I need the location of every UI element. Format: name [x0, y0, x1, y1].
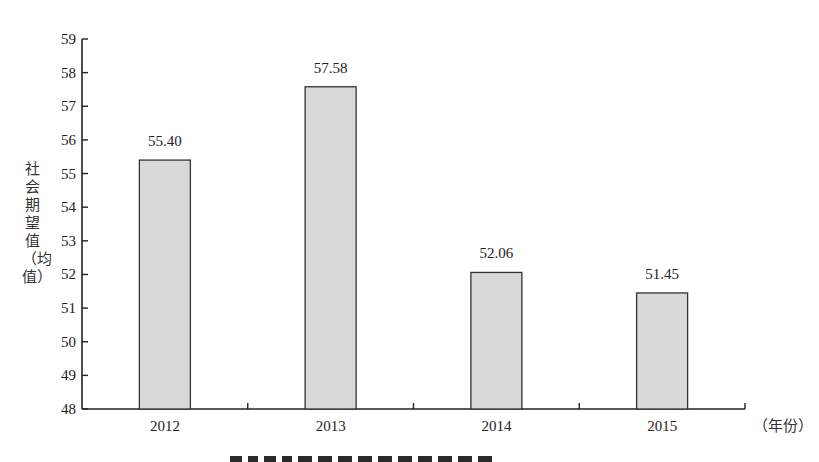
bar-2015: [637, 293, 688, 409]
x-tick-label: 2012: [150, 418, 180, 434]
x-axis-label: （年份）: [753, 417, 813, 435]
y-tick-label: 59: [61, 31, 76, 47]
figure-caption-cropped: [230, 452, 610, 462]
y-tick-label: 56: [61, 132, 77, 148]
y-tick-label: 55: [61, 166, 76, 182]
bar-2013: [305, 87, 356, 409]
y-axis-label: 社会期望值（均值）: [22, 160, 42, 286]
y-tick-label: 54: [61, 199, 77, 215]
y-tick-label: 50: [61, 334, 76, 350]
bar-value-label: 51.45: [645, 266, 679, 282]
x-axis: 2012201320142015（年份）: [82, 403, 813, 435]
bar-value-label: 57.58: [314, 60, 348, 76]
bars: 55.4057.5852.0651.45: [139, 60, 687, 409]
x-tick-label: 2013: [316, 418, 346, 434]
bar-value-label: 55.40: [148, 133, 182, 149]
x-tick-label: 2015: [647, 418, 677, 434]
y-tick-label: 52: [61, 266, 76, 282]
y-tick-label: 57: [61, 98, 77, 114]
y-axis: 484950515253545556575859: [61, 31, 88, 417]
y-tick-label: 51: [61, 300, 76, 316]
bar-chart: 484950515253545556575859 201220132014201…: [0, 0, 819, 462]
bar-value-label: 52.06: [480, 245, 514, 261]
y-tick-label: 48: [61, 401, 76, 417]
bar-2014: [471, 272, 522, 409]
x-tick-label: 2014: [481, 418, 512, 434]
y-tick-label: 58: [61, 65, 76, 81]
bar-2012: [139, 160, 190, 409]
y-tick-label: 49: [61, 367, 76, 383]
y-tick-label: 53: [61, 233, 76, 249]
